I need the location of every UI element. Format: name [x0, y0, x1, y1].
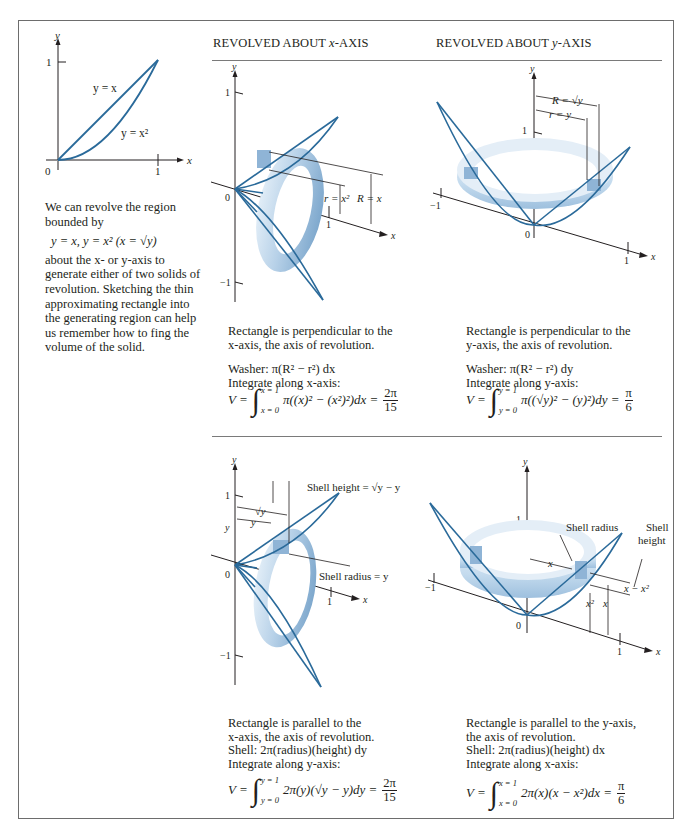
axis-label-x: x	[390, 230, 396, 241]
result-denominator: 6	[618, 794, 624, 807]
caption-line-1: Rectangle is perpendicular to the	[228, 325, 393, 339]
result-denominator: 15	[384, 401, 397, 414]
result-numerator: π	[625, 387, 633, 401]
caption-line-2: y-axis, the axis of revolution.	[466, 339, 631, 353]
axis-label-y: y	[231, 62, 237, 72]
washer-y-diagram: y x 1 −1 0 1 R = √y r = y	[425, 62, 680, 287]
upper-limit: y = 1	[499, 385, 517, 395]
result-fraction: π 6	[617, 780, 625, 807]
origin-label: 0	[225, 192, 230, 203]
axis-label-x: x	[650, 251, 656, 262]
shell-x-formula: V = ∫ y = 1 y = 0 2π(y)(√y − y)dy = 2π 1…	[228, 775, 397, 805]
header-x-prefix: REVOLVED ABOUT	[213, 36, 329, 50]
x-arrow-icon	[351, 595, 360, 601]
result-fraction: π 6	[625, 387, 633, 414]
washer-y-formula: V = ∫ y = 1 y = 0 π((√y)² − (y)²)dy = π …	[466, 385, 633, 415]
intro-equation: y = x, y = x² (x = √y)	[51, 234, 205, 249]
label-r: r = y	[549, 108, 571, 120]
label-r: r = x²	[324, 192, 350, 204]
header-divider	[212, 60, 662, 61]
integrate-line: Integrate along x-axis:	[466, 758, 636, 772]
label-y-equals-x: y = x	[93, 82, 117, 95]
tick-label-x1: 1	[155, 165, 161, 177]
header-y-suffix: -AXIS	[558, 36, 592, 50]
label-x-minus-x-squared: x − x²	[623, 583, 650, 594]
caption-line-1: Rectangle is perpendicular to the	[466, 325, 631, 339]
origin-label: 0	[516, 620, 521, 631]
upper-limit: x = 1	[499, 778, 517, 788]
shell-x-diagram: y x 1 y −1 0 1 √y y Shell height = √y − …	[205, 455, 425, 690]
label-x-squared: x²	[585, 598, 595, 609]
origin-label: 0	[225, 569, 230, 580]
caption-line-2: x-axis, the axis of revolution.	[228, 731, 375, 745]
label-shell-height: Shell height = √y − y	[307, 481, 401, 493]
formula-lhs: V =	[466, 392, 486, 408]
formula-lhs: V =	[228, 782, 248, 798]
tick-label-y: y	[224, 522, 230, 533]
label-R: R = √y	[551, 94, 583, 106]
axis-label-x: x	[655, 646, 661, 657]
tick-label-neg: −1	[430, 200, 441, 211]
origin-label: 0	[525, 229, 530, 240]
caption-line-2: the axis of revolution.	[466, 731, 636, 745]
integral-sign: ∫	[252, 775, 260, 805]
x-arrow-icon	[644, 647, 653, 653]
approx-rectangle-left	[464, 167, 478, 179]
label-sqrt-y: √y	[255, 506, 266, 517]
lower-limit: x = 0	[261, 405, 279, 415]
integral-sign: ∫	[490, 778, 498, 808]
result-numerator: 2π	[382, 777, 397, 791]
shell-x-caption: Rectangle is parallel to the x-axis, the…	[228, 717, 375, 771]
tick-label-neg: −1	[220, 650, 231, 661]
caption-line-1: Rectangle is parallel to the y-axis,	[466, 717, 636, 731]
upper-limit: y = 1	[261, 775, 279, 785]
tick-label-pos: 1	[225, 87, 230, 98]
shell-y-diagram: y x 1 −1 0 1 x Shell radius Shell height…	[420, 455, 680, 670]
integrand: 2π(y)(√y − y)dy =	[283, 782, 377, 798]
method-line: Washer: π(R² − r²) dy	[466, 363, 631, 377]
axis-label-y: y	[522, 456, 528, 467]
integral-limits: x = 1 x = 0	[261, 385, 279, 415]
label-R: R = x	[356, 192, 382, 204]
row-divider	[212, 436, 662, 437]
tick-label-y1: 1	[46, 56, 52, 68]
label-x-height: x	[602, 598, 608, 609]
origin-label: 0	[45, 165, 51, 177]
washer-x-diagram: y x 1 −1 0 1 r = x² R = x	[205, 62, 425, 307]
tick-label-x1: 1	[326, 219, 331, 230]
result-denominator: 15	[383, 791, 396, 804]
integrate-line: Integrate along y-axis:	[228, 758, 375, 772]
tick-label-x1: 1	[327, 596, 332, 607]
axis-label-x: x	[362, 594, 368, 605]
header-y-prefix: REVOLVED ABOUT	[436, 36, 552, 50]
curve-y-equals-x	[58, 60, 158, 160]
tick-label-x1: 1	[624, 255, 629, 266]
intro-text: We can revolve the region bounded by y =…	[45, 200, 205, 355]
integral-sign: ∫	[490, 385, 498, 415]
label-y-equals-x-squared: y = x²	[121, 127, 149, 140]
caption-line-2: x-axis, the axis of revolution.	[228, 339, 393, 353]
label-shell-radius: Shell radius = y	[319, 570, 389, 582]
shell-x-solid	[245, 524, 325, 653]
x-arrow-icon	[177, 158, 184, 163]
header-x-suffix: -AXIS	[335, 36, 369, 50]
result-numerator: π	[617, 780, 625, 794]
intro-line-1: We can revolve the region bounded by	[45, 200, 176, 229]
axis-label-x: x	[186, 154, 192, 166]
approx-rectangle-right	[575, 561, 587, 579]
x-arrow-icon	[639, 252, 648, 258]
x-arrow-icon	[379, 231, 388, 237]
label-shell-radius: Shell radius	[566, 521, 618, 533]
upper-limit: x = 1	[261, 385, 279, 395]
result-fraction: 2π 15	[382, 777, 397, 804]
formula-lhs: V =	[466, 785, 486, 801]
result-numerator: 2π	[383, 387, 398, 401]
integrand: π((x)² − (x²)²)dx =	[283, 392, 378, 408]
method-line: Shell: 2π(radius)(height) dx	[466, 744, 636, 758]
label-shell-height-line2: height	[638, 534, 666, 546]
integrand: π((√y)² − (y)²)dy =	[521, 392, 620, 408]
washer-y-caption: Rectangle is perpendicular to the y-axis…	[466, 325, 631, 390]
washer-x-caption: Rectangle is perpendicular to the x-axis…	[228, 325, 393, 390]
shell-y-formula: V = ∫ x = 1 x = 0 2π(x)(x − x²)dx = π 6	[466, 778, 625, 808]
tick-label-neg: −1	[425, 582, 436, 593]
